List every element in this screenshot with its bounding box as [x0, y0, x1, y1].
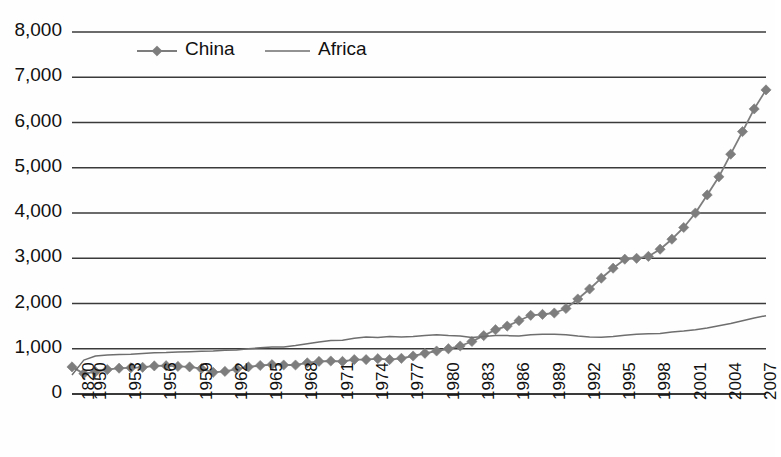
x-axis-tick-label: 1950	[91, 362, 111, 400]
x-axis-tick-label: 1968	[302, 362, 322, 400]
data-point-marker	[526, 310, 536, 320]
data-point-marker	[432, 346, 442, 356]
data-point-marker	[185, 362, 195, 372]
data-point-marker	[490, 325, 500, 335]
data-point-marker	[220, 366, 230, 376]
data-point-marker	[702, 190, 712, 200]
data-point-marker	[255, 360, 265, 370]
legend-marker-china	[152, 46, 162, 56]
data-point-marker	[408, 351, 418, 361]
x-axis-tick-label: 1998	[655, 362, 675, 400]
data-point-marker	[514, 316, 524, 326]
data-point-marker	[420, 348, 430, 358]
data-point-marker	[549, 308, 559, 318]
data-point-marker	[149, 361, 159, 371]
data-point-marker	[749, 104, 759, 114]
data-point-marker	[737, 127, 747, 137]
x-axis-tick-label: 1962	[232, 362, 252, 400]
data-point-marker	[455, 341, 465, 351]
data-point-marker	[326, 356, 336, 366]
series-line-china	[72, 90, 766, 374]
legend-label-china: China	[185, 38, 235, 60]
y-axis-tick-label: 5,000	[0, 155, 62, 177]
data-point-marker	[537, 309, 547, 319]
x-axis-tick-label: 1971	[338, 362, 358, 400]
x-axis-tick-label: 1992	[585, 362, 605, 400]
x-axis-tick-label: 1986	[514, 362, 534, 400]
x-axis-tick-label: 2007	[761, 362, 781, 400]
data-point-marker	[396, 353, 406, 363]
x-axis-tick-label: 1974	[373, 362, 393, 400]
data-point-marker	[726, 149, 736, 159]
x-axis-tick-label: 2004	[726, 362, 746, 400]
y-axis-tick-label: 1,000	[0, 336, 62, 358]
x-axis-tick-label: 2001	[691, 362, 711, 400]
x-axis-tick-label: 1983	[479, 362, 499, 400]
y-axis-tick-label: 6,000	[0, 110, 62, 132]
x-axis-tick-label: 1953	[126, 362, 146, 400]
y-axis-tick-label: 2,000	[0, 291, 62, 313]
y-axis-tick-label: 0	[0, 381, 62, 403]
data-point-marker	[632, 253, 642, 263]
data-point-marker	[643, 251, 653, 261]
y-axis-tick-label: 3,000	[0, 245, 62, 267]
y-axis-tick-label: 7,000	[0, 64, 62, 86]
y-axis-tick-label: 8,000	[0, 19, 62, 41]
y-axis-tick-label: 4,000	[0, 200, 62, 222]
x-axis-tick-label: 1977	[408, 362, 428, 400]
x-axis-tick-label: 1965	[267, 362, 287, 400]
x-axis-tick-label: 1956	[161, 362, 181, 400]
x-axis-tick-label: 1989	[550, 362, 570, 400]
data-point-marker	[443, 344, 453, 354]
data-point-marker	[502, 321, 512, 331]
data-point-marker	[761, 85, 771, 95]
data-point-marker	[114, 363, 124, 373]
legend-label-africa: Africa	[318, 38, 367, 60]
data-point-marker	[714, 172, 724, 182]
x-axis-tick-label: 1959	[197, 362, 217, 400]
data-point-marker	[290, 360, 300, 370]
data-point-marker	[361, 355, 371, 365]
x-axis-tick-label: 1980	[444, 362, 464, 400]
x-axis-tick-label: 1995	[620, 362, 640, 400]
